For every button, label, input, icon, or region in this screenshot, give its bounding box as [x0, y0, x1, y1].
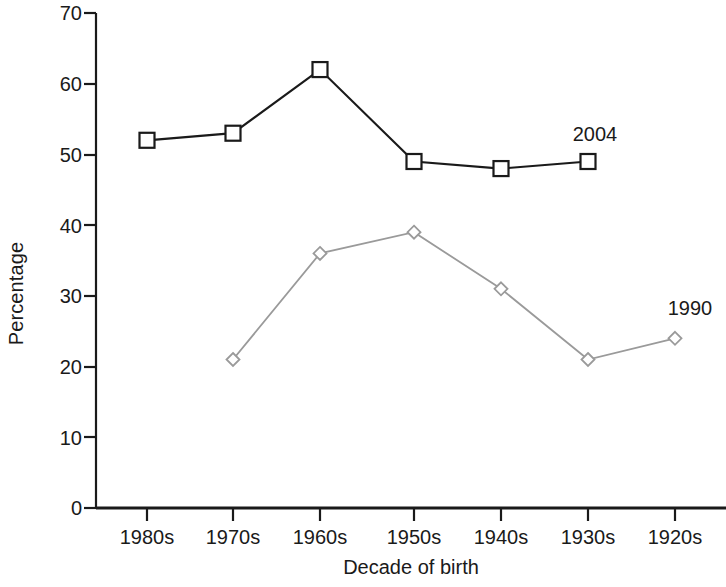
- y-tick-marks: [84, 13, 96, 508]
- data-point-marker: [226, 126, 241, 141]
- plot-area: [0, 0, 726, 587]
- line-chart-figure: Percentage 70 60 50 40 30 20 10 0 1980s …: [0, 0, 726, 587]
- series-2004-markers: [140, 62, 596, 176]
- series-1990: [227, 226, 682, 366]
- data-point-marker: [494, 161, 509, 176]
- series-2004: [140, 62, 596, 176]
- series-1990-markers: [227, 226, 682, 366]
- x-axis-title: Decade of birth: [96, 556, 726, 579]
- data-point-marker: [669, 332, 682, 345]
- data-point-marker: [407, 154, 422, 169]
- data-point-marker: [408, 226, 421, 239]
- series-label-1990: 1990: [652, 298, 726, 318]
- series-label-2004: 2004: [557, 124, 633, 144]
- data-point-marker: [140, 133, 155, 148]
- series-2004-line: [147, 70, 588, 169]
- data-point-marker: [581, 154, 596, 169]
- data-point-marker: [313, 62, 328, 77]
- series-1990-line: [233, 232, 675, 359]
- x-tick-marks: [147, 508, 675, 521]
